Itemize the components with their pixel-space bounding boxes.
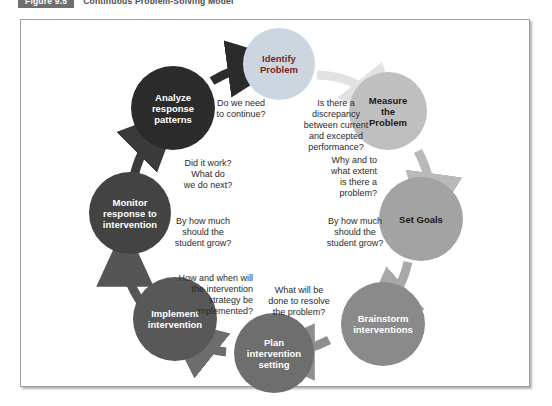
label-grow-right: By how much should the student grow? (309, 216, 401, 249)
figure-number-badge: Figure 9.5 (18, 0, 74, 8)
label-how-and-when: How and when will the intervention strat… (149, 273, 253, 317)
figure-frame: Identify Problem Measure the Problem Set… (20, 19, 530, 387)
node-identify-problem[interactable]: Identify Problem (243, 28, 315, 100)
label-what-will-be-done: What will be done to resolve the problem… (251, 285, 347, 318)
node-brainstorm-interventions[interactable]: Brainstorm interventions (341, 282, 425, 366)
node-plan-intervention-setting-label: Plan intervention setting (243, 337, 305, 370)
node-analyze-response-patterns-label: Analyze response patterns (148, 92, 198, 125)
node-plan-intervention-setting[interactable]: Plan intervention setting (234, 313, 314, 393)
label-why-and-to-what-extent: Why and to what extent is there a proble… (291, 155, 377, 199)
cycle-diagram: Identify Problem Measure the Problem Set… (21, 20, 531, 388)
label-is-there-a-discrepancy: Is there a discrepancy between current a… (287, 98, 385, 153)
arrow-implement-to-monitor (125, 258, 140, 301)
label-do-we-need-to-continue: Do we need to continue? (199, 98, 283, 120)
node-set-goals-label: Set Goals (395, 214, 447, 225)
label-grow-left: By how much should the student grow? (157, 216, 249, 249)
node-monitor-response-label: Monitor response to intervention (99, 197, 161, 230)
node-brainstorm-interventions-label: Brainstorm interventions (349, 313, 417, 335)
figure-title: Continuous Problem-Solving Model (83, 0, 233, 6)
label-did-it-work: Did it work? What do we do next? (163, 158, 253, 191)
figure-caption: Figure 9.5 Continuous Problem-Solving Mo… (18, 0, 234, 8)
node-identify-problem-label: Identify Problem (256, 53, 302, 75)
